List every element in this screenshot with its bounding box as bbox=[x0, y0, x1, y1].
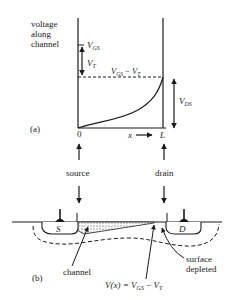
source-contact-pad bbox=[55, 219, 65, 223]
part-a-graph: voltage along channel VGS VT VGS − VT VD… bbox=[30, 18, 192, 140]
source-region-label: S bbox=[56, 224, 61, 234]
part-b-tag: (b) bbox=[32, 273, 43, 283]
drain-region-label: D bbox=[178, 224, 186, 234]
vt-label: VT bbox=[87, 58, 97, 69]
channel-label: channel bbox=[63, 267, 91, 277]
surface-depleted-label: surface depleted bbox=[186, 254, 217, 274]
mosfet-pinchoff-diagram: voltage along channel VGS VT VGS − VT VD… bbox=[0, 0, 233, 300]
source-label: source bbox=[66, 168, 90, 178]
x-variable-label: x bbox=[127, 130, 132, 140]
vgs-minus-vt-label: VGS − VT bbox=[111, 66, 141, 77]
x-end-label: L bbox=[159, 130, 165, 140]
pinchoff-callout-arrow bbox=[146, 225, 154, 279]
drain-label: drain bbox=[155, 168, 174, 178]
vgs-label: VGS bbox=[87, 40, 100, 51]
channel-region bbox=[77, 222, 154, 234]
terminal-labels: source drain bbox=[66, 144, 174, 203]
y-axis-label: voltage along channel bbox=[31, 19, 60, 49]
pinchoff-condition-label: V(x) = VGS − VT bbox=[105, 280, 163, 291]
drain-contact-pad bbox=[179, 219, 189, 223]
x-origin-label: 0 bbox=[77, 129, 82, 139]
part-b-cross-section: S D channel V(x) = VGS − VT surface depl… bbox=[12, 209, 222, 291]
vds-label: VDS bbox=[179, 96, 192, 107]
channel-voltage-curve bbox=[78, 77, 163, 128]
part-a-tag: (a) bbox=[30, 124, 40, 134]
